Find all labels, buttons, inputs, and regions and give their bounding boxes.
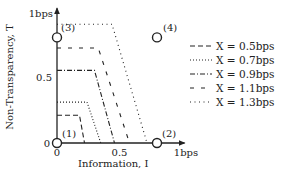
x-tick-label: 0.5 bbox=[112, 147, 128, 158]
legend-label-4: X = 1.1bps bbox=[216, 82, 274, 94]
point-label-1: (1) bbox=[62, 128, 76, 139]
x-tick-label: 1bps bbox=[174, 147, 198, 158]
point-label-4: (4) bbox=[163, 22, 177, 33]
series-line-5 bbox=[57, 24, 147, 143]
x-tick-label: 0 bbox=[54, 147, 60, 158]
point-marker-3 bbox=[53, 33, 62, 42]
legend-label-2: X = 0.7bps bbox=[216, 54, 274, 66]
y-axis-label: Non-Transparency, T bbox=[4, 24, 15, 130]
y-tick-label: 0.5 bbox=[36, 72, 52, 83]
legend-label-1: X = 0.5bps bbox=[216, 40, 274, 52]
chart: 00.51bps00.51bps Information, I Non-Tran… bbox=[0, 0, 285, 179]
point-label-2: (2) bbox=[162, 128, 176, 139]
legend-label-3: X = 0.9bps bbox=[216, 68, 274, 80]
point-marker-4 bbox=[153, 33, 162, 42]
legend-label-5: X = 1.3bps bbox=[216, 96, 274, 108]
x-axis-label: Information, I bbox=[78, 158, 148, 169]
legend: X = 0.5bpsX = 0.7bpsX = 0.9bpsX = 1.1bps… bbox=[190, 40, 274, 108]
y-tick-label: 0 bbox=[44, 138, 50, 149]
y-tick-label: 1bps bbox=[29, 8, 53, 19]
point-annotations: (1)(2)(3)(4) bbox=[53, 22, 178, 147]
series-layer bbox=[57, 24, 147, 143]
point-marker-2 bbox=[153, 139, 162, 148]
point-label-3: (3) bbox=[61, 22, 75, 33]
point-marker-1 bbox=[53, 139, 62, 148]
